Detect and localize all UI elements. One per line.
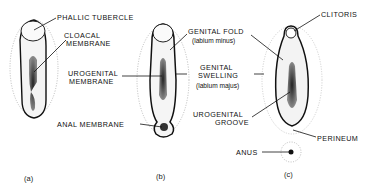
label-clitoris: CLITORIS (321, 10, 357, 19)
label-anus: ANUS (236, 148, 258, 157)
label-membrane: MEMBRANE (66, 39, 111, 48)
label-genital-fold: GENITAL FOLD (188, 27, 244, 36)
panel-b-phallic-tubercle (153, 24, 173, 42)
embryology-diagram: PHALLIC TUBERCLE CLOACAL MEMBRANE UROGEN… (0, 0, 373, 193)
label-swelling: SWELLING (198, 71, 238, 80)
label-groove: GROOVE (215, 118, 249, 127)
label-labium-majus: (labium majus) (196, 82, 239, 90)
diagram-canvas: PHALLIC TUBERCLE CLOACAL MEMBRANE UROGEN… (0, 0, 373, 193)
panel-a-phallic-tubercle (21, 21, 45, 41)
label-perineum: PERINEUM (317, 134, 358, 143)
label-labium-minus: (labium minus) (192, 37, 235, 45)
label-phallic-tubercle: PHALLIC TUBERCLE (57, 13, 134, 22)
label-anal-membrane: ANAL MEMBRANE (57, 120, 124, 129)
leader-genital-fold-c (251, 35, 283, 60)
panel-c-clitoris (286, 28, 296, 38)
caption-a: (a) (24, 174, 34, 183)
leader-clitoris (294, 15, 320, 31)
label-urogenital-membrane: MEMBRANE (69, 77, 114, 86)
caption-c: (c) (284, 170, 293, 179)
panel-c-drawing (262, 26, 322, 162)
panel-b-urogenital-membrane (159, 58, 167, 100)
caption-b: (b) (156, 172, 166, 181)
panel-a-drawing (10, 20, 58, 118)
panel-b-drawing (137, 24, 189, 137)
panel-c-anus (289, 150, 294, 155)
